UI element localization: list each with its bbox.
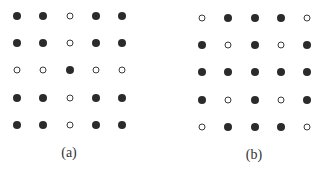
filled-dot-icon bbox=[224, 68, 232, 76]
filled-dot-icon bbox=[251, 123, 259, 131]
hollow-dot-icon bbox=[199, 123, 206, 130]
hollow-dot-icon bbox=[199, 15, 206, 22]
filled-dot-icon bbox=[198, 68, 206, 76]
hollow-dot-icon bbox=[225, 96, 232, 103]
filled-dot-icon bbox=[303, 96, 311, 104]
hollow-dot-icon bbox=[304, 123, 311, 130]
hollow-dot-icon bbox=[225, 42, 232, 49]
hollow-dot-icon bbox=[277, 42, 284, 49]
filled-dot-icon bbox=[303, 41, 311, 49]
filled-dot-icon bbox=[251, 41, 259, 49]
filled-dot-icon bbox=[251, 68, 259, 76]
panel-b-label: (b) bbox=[246, 147, 262, 163]
filled-dot-icon bbox=[277, 123, 285, 131]
filled-dot-icon bbox=[224, 123, 232, 131]
panel-b: (b) bbox=[0, 0, 321, 171]
filled-dot-icon bbox=[224, 14, 232, 22]
filled-dot-icon bbox=[251, 14, 259, 22]
hollow-dot-icon bbox=[304, 15, 311, 22]
filled-dot-icon bbox=[198, 96, 206, 104]
hollow-dot-icon bbox=[277, 96, 284, 103]
filled-dot-icon bbox=[198, 41, 206, 49]
filled-dot-icon bbox=[251, 96, 259, 104]
filled-dot-icon bbox=[277, 68, 285, 76]
filled-dot-icon bbox=[277, 14, 285, 22]
filled-dot-icon bbox=[303, 68, 311, 76]
